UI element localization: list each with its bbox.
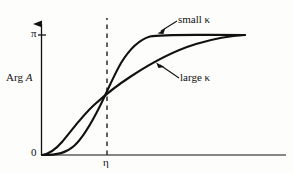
small-kappa-leader-line [161,21,177,31]
y-axis-label-text: Arg [6,71,26,83]
annotation-large-kappa: large κ [180,72,210,83]
x-tick-label-eta: η [103,157,109,168]
annotation-small-kappa: small κ [178,14,210,25]
small-kappa-leader-arrow-icon [158,28,166,34]
large-kappa-leader-arrow-icon [156,63,164,68]
y-axis-label-symbol: A [26,71,33,83]
y-axis-label: Arg A [6,72,32,83]
origin-label: 0 [31,147,37,158]
y-tick-label-pi: π [31,28,37,39]
plot-area [0,0,293,173]
curve-large-kappa [42,35,245,155]
figure-container: π 0 η Arg A small κ large κ [0,0,293,173]
curve-small-kappa [42,35,245,155]
